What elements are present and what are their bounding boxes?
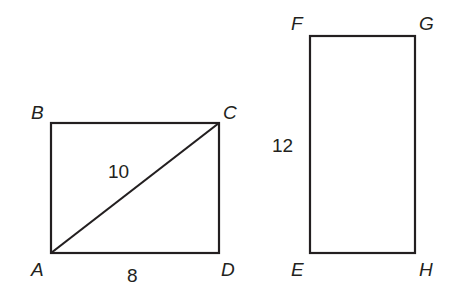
vertex-label-c: C [223, 102, 237, 123]
geometry-figure: B C A D 10 8 F G E H 12 [0, 0, 456, 306]
bottom-length-label: 8 [127, 265, 138, 286]
vertex-label-a: A [30, 259, 44, 280]
side-length-label: 12 [272, 135, 293, 156]
rectangle-abcd: B C A D 10 8 [30, 102, 237, 286]
vertex-label-f: F [291, 13, 304, 34]
diagonal-ac [51, 123, 219, 253]
vertex-label-g: G [419, 13, 434, 34]
rectangle-efgh-outline [310, 36, 415, 253]
vertex-label-d: D [221, 259, 235, 280]
rectangle-efgh: F G E H 12 [272, 13, 434, 280]
diagonal-length-label: 10 [108, 161, 129, 182]
vertex-label-e: E [291, 259, 304, 280]
vertex-label-h: H [419, 259, 433, 280]
vertex-label-b: B [31, 102, 44, 123]
